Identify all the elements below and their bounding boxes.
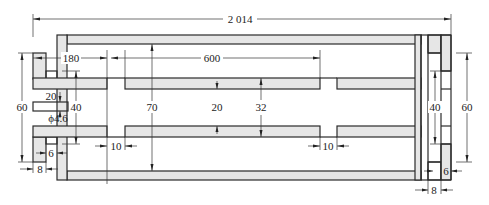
inner-lower-wall-1 <box>33 126 107 137</box>
dim-channel-height: 20 <box>212 101 224 113</box>
right-mid-post-upper <box>428 35 441 53</box>
outer-top-wall <box>67 35 421 44</box>
dim-outer-height-left: 60 <box>17 101 29 113</box>
right-inner-post <box>415 35 421 180</box>
inner-upper-wall-2 <box>125 78 320 89</box>
left-bracket-lower <box>33 137 46 162</box>
outer-bottom-wall <box>67 171 421 180</box>
dim-slot-height: 20 <box>46 90 58 102</box>
inner-upper-wall-3 <box>337 78 421 89</box>
left-bracket-slot-bottom <box>46 137 57 144</box>
engineering-drawing: 2 014 180 600 60 20 <box>0 0 489 205</box>
right-outer-post-upper <box>441 35 451 71</box>
dim-flange-width-right: 8 <box>431 184 437 196</box>
dim-hole-diameter: ϕ4.6 <box>48 112 68 124</box>
dim-flange-width-left: 8 <box>37 163 43 175</box>
dim-left-offset: 180 <box>63 52 80 64</box>
inner-upper-wall-1 <box>33 78 107 89</box>
dim-plate-thickness-left: 6 <box>48 147 54 159</box>
dim-cavity-height: 70 <box>147 101 159 113</box>
left-bracket-upper <box>33 53 46 79</box>
dim-outer-height-right: 60 <box>462 101 474 113</box>
dim-plate-thickness-right: 6 <box>443 165 449 177</box>
dim-gap-left: 10 <box>111 140 123 152</box>
structure <box>33 35 451 180</box>
dim-inner-height-right: 40 <box>430 101 442 113</box>
dim-duct-height: 32 <box>256 101 267 113</box>
dim-gap-right: 10 <box>323 140 335 152</box>
dim-overall-length: 2 014 <box>228 13 253 25</box>
dim-segment-length: 600 <box>204 52 221 64</box>
inner-lower-wall-3 <box>337 126 421 137</box>
inner-lower-wall-2 <box>125 126 320 137</box>
dim-inner-height-left: 40 <box>71 101 83 113</box>
